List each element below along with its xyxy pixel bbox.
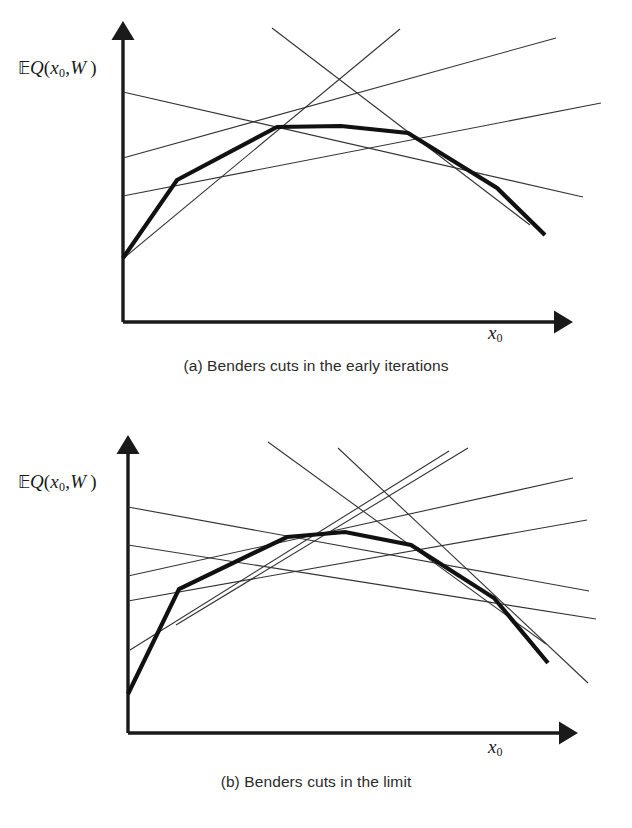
cut-line-a-2 <box>123 38 556 158</box>
cut-line-a-3 <box>123 103 601 196</box>
x-axis-label-a: x0 <box>488 323 502 344</box>
panel-a: 𝔼Q(x0,W ) x0 (a) Benders cuts in the ear… <box>0 0 632 414</box>
plot-b-canvas <box>0 414 632 774</box>
y-axis-label-b: 𝔼Q(x0,W ) <box>18 472 97 493</box>
panel-b: 𝔼Q(x0,W ) x0 (b) Benders cuts in the lim… <box>0 414 632 828</box>
cut-line-b-5 <box>130 451 449 650</box>
cut-lines-b <box>128 442 596 683</box>
y-axis-label-a: 𝔼Q(x0,W ) <box>18 58 97 79</box>
blackboard-e-icon: 𝔼 <box>18 472 30 492</box>
cut-line-b-7 <box>176 448 468 625</box>
recourse-curve-a <box>123 126 545 258</box>
x-axis-label-b: x0 <box>488 737 502 758</box>
plot-a-canvas <box>0 0 632 360</box>
axes-b <box>128 450 563 733</box>
cut-lines-a <box>123 28 601 257</box>
caption-b: (b) Benders cuts in the limit <box>0 773 632 791</box>
cut-line-a-1 <box>123 92 583 197</box>
caption-a: (a) Benders cuts in the early iterations <box>0 357 632 375</box>
recourse-curve-b <box>128 532 548 694</box>
cut-line-a-4 <box>125 29 400 257</box>
benders-cuts-figure: 𝔼Q(x0,W ) x0 (a) Benders cuts in the ear… <box>0 0 632 828</box>
blackboard-e-icon: 𝔼 <box>18 58 30 78</box>
